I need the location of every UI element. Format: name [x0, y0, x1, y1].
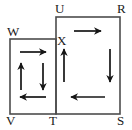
vertex-label-u: U	[55, 2, 64, 15]
left-rectangle-WXTV	[10, 39, 56, 114]
vertex-label-v: V	[6, 114, 15, 127]
figure-canvas	[0, 0, 132, 130]
geometry-figure: W U R X V T S	[0, 0, 132, 130]
vertex-label-x: X	[57, 34, 66, 47]
vertex-label-r: R	[117, 2, 126, 15]
vertex-label-s: S	[117, 114, 124, 127]
vertex-label-t: T	[49, 114, 57, 127]
rectangle-outlines	[10, 17, 120, 114]
vertex-label-w: W	[7, 25, 19, 38]
